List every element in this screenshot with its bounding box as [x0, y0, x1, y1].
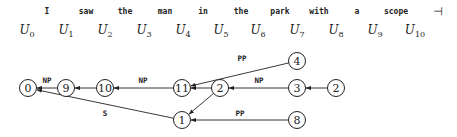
word-token: saw: [79, 7, 94, 16]
edge-label: NP: [138, 76, 148, 85]
node-3: 3: [289, 80, 306, 97]
sentence-words: Isawthemanintheparkwithascope: [45, 6, 409, 16]
node-label: 0: [25, 82, 32, 95]
position-label: U7: [289, 23, 304, 39]
node-8: 8: [289, 112, 306, 129]
position-label: U4: [175, 23, 190, 39]
edge-11-to-10: NP: [114, 76, 174, 88]
edge-8-to-1: PP: [191, 109, 289, 120]
sentence-lattice-diagram: Isawthemanintheparkwithascope ⊣ U0U1U2U3…: [0, 0, 457, 137]
edge-label: PP: [235, 109, 245, 118]
node-label: 3: [294, 82, 301, 95]
position-label: U5: [213, 23, 228, 39]
word-token: with: [309, 6, 328, 16]
word-token: a: [355, 7, 360, 16]
node-0: 0: [20, 80, 37, 97]
node-11: 11: [174, 80, 191, 97]
edge-9-to-0: NP: [37, 76, 58, 88]
edge-label: S: [103, 109, 108, 118]
node-label: 2: [217, 82, 224, 95]
word-token: in: [198, 6, 208, 16]
edge-2-to-1: [189, 93, 214, 114]
word-token: scope: [384, 7, 408, 16]
node-label: 9: [63, 82, 70, 95]
node-1: 1: [174, 112, 191, 129]
node-10: 10: [97, 80, 114, 97]
edge-label: PP: [237, 54, 247, 63]
position-label: U2: [97, 23, 112, 39]
node-2: 2: [212, 80, 229, 97]
position-label: U3: [136, 23, 151, 39]
word-token: park: [270, 7, 289, 16]
node-label: 10: [98, 82, 112, 95]
node-9: 9: [58, 80, 75, 97]
end-marker: ⊣: [433, 5, 443, 18]
node-4: 4: [289, 53, 306, 70]
node-label: 2: [333, 82, 340, 95]
position-labels: U0U1U2U3U4U5U6U7U8U9U10: [19, 23, 425, 39]
node-2: 2: [328, 80, 345, 97]
node-label: 4: [294, 55, 301, 68]
position-label: U0: [19, 23, 34, 39]
word-token: the: [234, 7, 249, 16]
node-label: 8: [294, 114, 301, 127]
position-label: U6: [250, 23, 265, 39]
position-label: U9: [367, 23, 382, 39]
edge-3-to-2: NP: [229, 76, 289, 88]
position-label: U10: [405, 23, 425, 39]
word-token: the: [118, 7, 133, 16]
edge-4-to-11: PP: [191, 54, 289, 86]
word-token: I: [45, 7, 50, 16]
word-token: man: [158, 7, 173, 16]
position-label: U1: [58, 23, 73, 39]
edge-label: NP: [254, 76, 264, 85]
graph-nodes: 091011232418: [20, 53, 345, 129]
node-label: 1: [179, 114, 186, 127]
position-label: U8: [328, 23, 343, 39]
edge-label: NP: [42, 76, 52, 85]
node-label: 11: [175, 82, 189, 95]
